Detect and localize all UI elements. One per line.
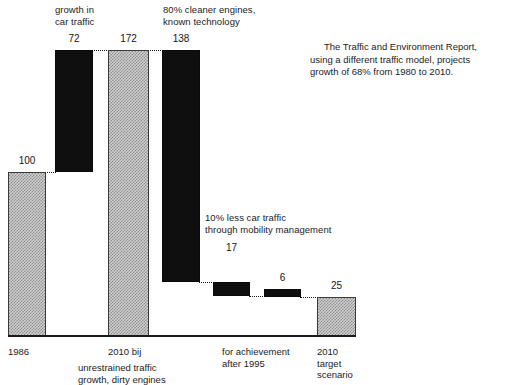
- bar-138: [162, 50, 200, 282]
- bar-17: [213, 282, 250, 296]
- baseline-axis: [8, 335, 356, 337]
- bar-value-label: 138: [162, 33, 200, 44]
- annotation-mobility-management: 10% less car traffic through mobility ma…: [205, 212, 380, 235]
- category-label-2010-bij: 2010 bij: [108, 346, 188, 358]
- bar-72: [55, 50, 93, 172]
- category-label-2010-target: 2010 target scenario: [317, 346, 387, 381]
- waterfall-connector: [148, 50, 163, 52]
- category-label-1986: 1986: [8, 346, 68, 358]
- waterfall-connector: [300, 297, 318, 299]
- bar-value-label: 25: [317, 280, 356, 291]
- bar-6: [264, 289, 301, 297]
- waterfall-connector: [92, 50, 109, 52]
- bar-100: [8, 172, 46, 336]
- annotation-growth-in-car-traffic: growth in car traffic: [55, 4, 160, 27]
- waterfall-chart: growth in car traffic 80% cleaner engine…: [0, 0, 505, 385]
- bar-value-label: 6: [264, 272, 301, 283]
- waterfall-connector: [45, 172, 56, 174]
- annotation-cleaner-engines: 80% cleaner engines, known technology: [163, 4, 298, 27]
- bar-25: [317, 297, 356, 336]
- bar-172: [108, 50, 149, 336]
- category-label-for-achievement: for achievement after 1995: [222, 346, 312, 369]
- category-label-2010-bij-sub: unrestrained traffic growth, dirty engin…: [78, 362, 218, 385]
- report-note: The Traffic and Environment Report, usin…: [310, 41, 500, 79]
- bar-value-label: 100: [8, 155, 46, 166]
- bar-value-label: 17: [213, 242, 250, 253]
- bar-value-label: 172: [108, 33, 149, 44]
- waterfall-connector: [249, 296, 265, 298]
- waterfall-connector: [199, 282, 214, 284]
- bar-value-label: 72: [55, 33, 93, 44]
